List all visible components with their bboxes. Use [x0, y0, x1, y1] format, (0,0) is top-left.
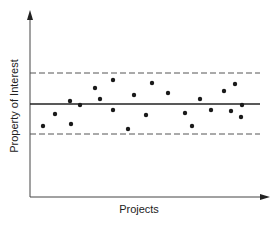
x-axis-label: Projects: [0, 203, 278, 215]
data-point: [190, 124, 194, 128]
data-point: [240, 103, 244, 107]
data-point: [183, 111, 187, 115]
data-point: [68, 99, 72, 103]
data-point: [150, 81, 154, 85]
data-point: [69, 122, 73, 126]
data-point: [166, 91, 170, 95]
data-point: [111, 78, 115, 82]
data-point: [93, 86, 97, 90]
y-axis-label: Property of Interest: [8, 59, 20, 153]
data-point: [41, 124, 45, 128]
data-point: [198, 97, 202, 101]
data-point: [78, 103, 82, 107]
reference-lines: [30, 73, 260, 134]
data-point: [111, 108, 115, 112]
data-point: [239, 115, 243, 119]
y-axis-arrow-icon: [27, 10, 33, 20]
data-point: [144, 113, 148, 117]
data-point: [132, 93, 136, 97]
axes: [27, 10, 270, 200]
data-point: [126, 127, 130, 131]
data-point: [98, 97, 102, 101]
data-point: [53, 112, 57, 116]
data-point: [229, 109, 233, 113]
data-point: [222, 89, 226, 93]
x-axis-arrow-icon: [260, 194, 270, 200]
data-point: [233, 82, 237, 86]
data-point: [209, 108, 213, 112]
scatter-chart: [0, 0, 278, 231]
